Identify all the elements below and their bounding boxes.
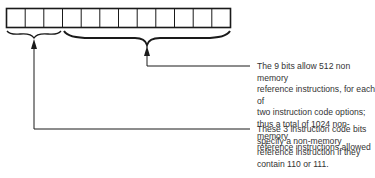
instruction-code-arrow [31,39,250,129]
operation-bits-brace [64,31,230,45]
register-box [7,9,231,28]
instruction-code-note: These 3 instruction code bits specify a … [257,124,375,170]
instruction-code-brace [7,31,61,38]
operation-bits-arrow [144,46,250,66]
